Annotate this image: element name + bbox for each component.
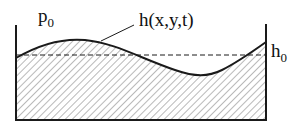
surface-leader-line <box>101 25 134 41</box>
mean-depth-label: h0 <box>271 40 287 65</box>
fluid-layer-diagram: p0 h(x,y,t) h0 <box>0 0 304 133</box>
surface-height-label: h(x,y,t) <box>139 9 194 31</box>
diagram-canvas: p0 h(x,y,t) h0 <box>0 0 304 133</box>
ambient-pressure-label: p0 <box>38 5 54 30</box>
